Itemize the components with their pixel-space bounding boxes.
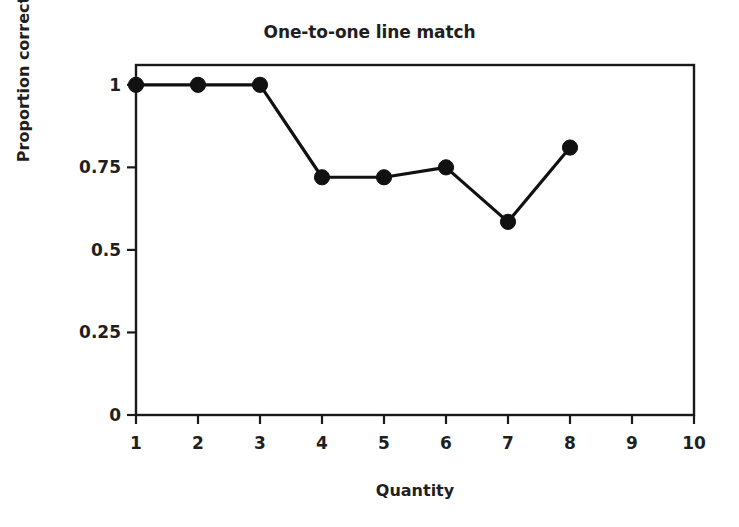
data-series-line <box>136 85 570 222</box>
chart-figure: One-to-one line match Proportion correct… <box>0 0 739 527</box>
y-tick-label: 0 <box>109 405 121 425</box>
data-point-marker[interactable] <box>438 160 453 175</box>
data-point-marker[interactable] <box>314 170 329 185</box>
x-tick-label: 4 <box>316 433 328 453</box>
x-tick-label: 10 <box>682 433 706 453</box>
data-point-marker[interactable] <box>562 140 577 155</box>
data-point-marker[interactable] <box>190 77 205 92</box>
y-tick-label: 0.75 <box>79 157 121 177</box>
x-tick-label: 1 <box>130 433 142 453</box>
data-point-marker[interactable] <box>252 77 267 92</box>
y-tick-label: 0.5 <box>91 240 121 260</box>
x-tick-label: 7 <box>502 433 514 453</box>
y-tick-label: 0.25 <box>79 322 121 342</box>
x-axis-title: Quantity <box>136 481 694 500</box>
data-point-marker[interactable] <box>128 77 143 92</box>
x-tick-label: 6 <box>440 433 452 453</box>
x-tick-label: 5 <box>378 433 390 453</box>
plot-area: 00.250.50.75112345678910 <box>0 0 739 527</box>
x-tick-label: 2 <box>192 433 204 453</box>
axes-frame <box>136 65 694 415</box>
x-tick-label: 3 <box>254 433 266 453</box>
data-point-marker[interactable] <box>500 214 515 229</box>
x-tick-label: 8 <box>564 433 576 453</box>
x-tick-label: 9 <box>626 433 638 453</box>
data-point-marker[interactable] <box>376 170 391 185</box>
y-tick-label: 1 <box>109 75 121 95</box>
